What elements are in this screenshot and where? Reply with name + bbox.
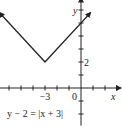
x-tick-label: 0 — [72, 91, 77, 102]
chart: −302 x y y − 2 = |x + 3| — [0, 0, 122, 128]
x-axis-label: x — [110, 91, 116, 102]
y-axis-label: y — [72, 5, 78, 16]
series-line — [0, 13, 91, 62]
x-tick-label: −3 — [40, 91, 51, 102]
equation-label: y − 2 = |x + 3| — [7, 108, 63, 119]
y-tick-label: 2 — [84, 57, 89, 68]
